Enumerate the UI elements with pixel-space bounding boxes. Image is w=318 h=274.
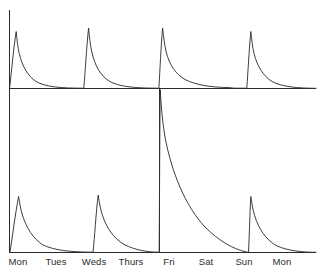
bottom-panel-series-line	[10, 90, 316, 253]
x-axis-tick-label-group: Mon Tues Weds Thurs Fri Sat Sun Mon	[0, 256, 318, 274]
x-tick-label-mon-1: Mon	[9, 256, 28, 267]
x-tick-label-fri: Fri	[163, 256, 174, 267]
top-panel-series-line	[10, 28, 316, 88]
chart-figure: Mon Tues Weds Thurs Fri Sat Sun Mon	[0, 0, 318, 274]
x-tick-label-weds: Weds	[82, 256, 107, 267]
top-panel	[9, 10, 316, 89]
chart-canvas	[0, 0, 318, 274]
x-tick-label-sun: Sun	[235, 256, 252, 267]
x-tick-label-thurs: Thurs	[119, 256, 144, 267]
x-tick-label-tues: Tues	[45, 256, 66, 267]
x-tick-label-sat: Sat	[199, 256, 214, 267]
bottom-panel	[9, 89, 316, 253]
x-tick-label-mon-2: Mon	[273, 256, 292, 267]
